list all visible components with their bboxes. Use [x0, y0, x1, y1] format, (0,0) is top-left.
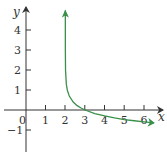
y-axis-label: y	[12, 5, 20, 19]
y-tick-label-2: 2	[14, 64, 21, 77]
y-tick-label-1: 1	[14, 84, 21, 97]
y-tick-label-3: 3	[14, 44, 21, 57]
y-tick-label-neg1: −1	[7, 124, 23, 137]
x-ticks	[46, 105, 145, 110]
x-tick-label-3: 3	[81, 114, 88, 127]
y-tick-label-4: 4	[14, 24, 21, 37]
x-tick-label-2: 2	[62, 114, 69, 127]
x-tick-label-6: 6	[141, 114, 148, 127]
curve-series	[65, 11, 154, 123]
x-tick-label-1: 1	[42, 114, 49, 127]
chart: 0 1 2 3 4 5 6 4 3 2 1 −1 y x	[0, 0, 167, 154]
y-ticks	[26, 30, 31, 130]
x-tick-label-5: 5	[121, 114, 128, 127]
x-axis-label: x	[158, 110, 165, 124]
